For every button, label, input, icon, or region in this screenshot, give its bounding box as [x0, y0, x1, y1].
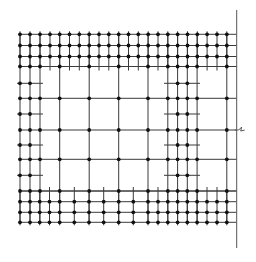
grid-node	[58, 128, 62, 132]
grid-node	[185, 200, 189, 204]
grid-node	[156, 32, 160, 36]
grid-node	[58, 44, 62, 48]
grid-node	[28, 128, 32, 132]
grid-lines	[17, 31, 237, 225]
grid-node	[77, 44, 81, 48]
grid-node	[146, 128, 150, 132]
grid-node	[185, 157, 189, 161]
grid-node	[176, 157, 180, 161]
grid-node	[38, 189, 42, 193]
grid-node	[18, 200, 22, 204]
grid-node	[58, 210, 62, 214]
grid-node	[146, 210, 150, 214]
grid-node	[146, 96, 150, 100]
grid-node	[186, 44, 190, 48]
grid-node	[127, 55, 131, 59]
grid-node	[18, 143, 22, 147]
grid-node	[87, 220, 91, 224]
grid-node	[97, 32, 101, 36]
grid-node	[166, 189, 170, 193]
grid-node	[136, 44, 140, 48]
grid-node	[176, 128, 180, 132]
grid-node	[131, 200, 135, 204]
grid-node	[28, 200, 32, 204]
grid-node	[195, 65, 199, 69]
grid-node	[166, 210, 170, 214]
grid-node	[102, 210, 106, 214]
grid-node	[176, 210, 180, 214]
grid-node	[185, 210, 189, 214]
grid-node	[176, 65, 180, 69]
grid-node	[18, 96, 22, 100]
grid-node	[87, 44, 91, 48]
grid-node	[215, 220, 219, 224]
grid-node	[87, 200, 91, 204]
grid-node	[176, 81, 180, 85]
grid-node	[186, 55, 190, 59]
grid-node	[48, 220, 52, 224]
grid-node	[72, 200, 76, 204]
grid-node	[225, 65, 229, 69]
grid-node	[127, 44, 131, 48]
grid-node	[176, 44, 180, 48]
grid-node	[146, 65, 150, 69]
grid-node	[185, 96, 189, 100]
grid-node	[68, 32, 72, 36]
grid-node	[38, 32, 42, 36]
grid-node	[18, 55, 22, 59]
grid-node	[58, 200, 62, 204]
grid-node	[205, 210, 209, 214]
grid-node	[48, 55, 52, 59]
grid-node	[166, 220, 170, 224]
grid-node	[18, 44, 22, 48]
grid-node	[28, 44, 32, 48]
grid-node	[185, 173, 189, 177]
grid-node	[195, 96, 199, 100]
grid-node	[58, 32, 62, 36]
grid-node	[107, 44, 111, 48]
grid-node	[68, 44, 72, 48]
grid-node	[205, 55, 209, 59]
grid-node	[176, 173, 180, 177]
grid-node	[28, 112, 32, 116]
grid-node	[146, 189, 150, 193]
grid-node	[225, 210, 229, 214]
grid-node	[127, 32, 131, 36]
grid-node	[87, 128, 91, 132]
grid-node	[48, 44, 52, 48]
grid-node	[146, 55, 150, 59]
grid-node	[38, 65, 42, 69]
grid-node	[117, 32, 121, 36]
grid-node	[28, 210, 32, 214]
grid-node	[117, 210, 121, 214]
grid-node	[195, 157, 199, 161]
grid-node	[131, 220, 135, 224]
grid-node	[58, 55, 62, 59]
grid-node	[195, 220, 199, 224]
grid-node	[77, 32, 81, 36]
grid-node	[87, 32, 91, 36]
grid-node	[117, 220, 121, 224]
grid-node	[205, 44, 209, 48]
grid-node	[48, 32, 52, 36]
grid-node	[58, 189, 62, 193]
grid-node	[166, 200, 170, 204]
grid-node	[195, 189, 199, 193]
grid-node	[38, 220, 42, 224]
grid-node	[215, 44, 219, 48]
grid-node	[28, 32, 32, 36]
grid-node	[38, 55, 42, 59]
grid-node	[176, 143, 180, 147]
grid-node	[195, 32, 199, 36]
grid-node	[97, 55, 101, 59]
grid-node	[117, 189, 121, 193]
grid-node	[117, 128, 121, 132]
grid-node	[28, 96, 32, 100]
grid-node	[28, 65, 32, 69]
grid-node	[166, 96, 170, 100]
grid-node	[225, 220, 229, 224]
grid-node	[28, 55, 32, 59]
mesh-grid-diagram	[0, 0, 256, 262]
grid-node	[18, 210, 22, 214]
grid-node	[136, 32, 140, 36]
